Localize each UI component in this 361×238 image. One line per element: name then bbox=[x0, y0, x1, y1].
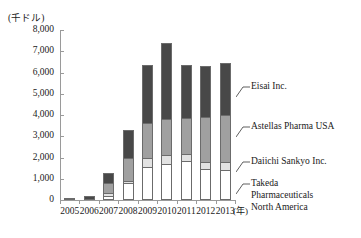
bar-segment bbox=[161, 155, 172, 164]
bar-segment bbox=[84, 196, 95, 199]
x-tick-mark bbox=[216, 200, 217, 204]
x-tick-label: 2007 bbox=[99, 206, 118, 217]
bar-segment bbox=[161, 119, 172, 155]
bar-segment bbox=[142, 123, 153, 159]
x-tick-label: 2011 bbox=[177, 206, 196, 217]
y-tick-label: 5,000 bbox=[8, 89, 54, 99]
bar-segment bbox=[103, 173, 114, 183]
y-tick-label: 1,000 bbox=[8, 174, 54, 184]
bar-segment bbox=[220, 115, 231, 162]
x-axis-line bbox=[60, 200, 236, 201]
bar-segment bbox=[220, 162, 231, 171]
legend-leader-daiichi bbox=[236, 161, 250, 173]
legend-label-eisai: Eisai Inc. bbox=[251, 81, 287, 93]
bar-2007 bbox=[103, 30, 114, 200]
bar-segment bbox=[142, 65, 153, 122]
legend-leader-astellas bbox=[236, 126, 250, 138]
legend-label-takeda-line2: Pharmaceuticals bbox=[251, 190, 313, 202]
bar-segment bbox=[103, 193, 114, 196]
x-tick-label: 2006 bbox=[79, 206, 98, 217]
x-tick-mark bbox=[118, 200, 119, 204]
x-tick-label: 2009 bbox=[138, 206, 157, 217]
x-tick-label: 2010 bbox=[157, 206, 176, 217]
bar-segment bbox=[200, 162, 211, 169]
bar-2011 bbox=[181, 30, 192, 200]
x-tick-mark bbox=[235, 200, 236, 204]
plot-area bbox=[60, 30, 235, 200]
bar-2010 bbox=[161, 30, 172, 200]
bar-segment bbox=[123, 181, 134, 183]
bar-segment bbox=[181, 154, 192, 161]
bar-segment bbox=[200, 66, 211, 117]
legend-leader-eisai bbox=[236, 86, 250, 98]
bar-2012 bbox=[200, 30, 211, 200]
x-tick-mark bbox=[196, 200, 197, 204]
bar-segment bbox=[200, 169, 211, 200]
x-tick-mark bbox=[138, 200, 139, 204]
y-tick-label: 3,000 bbox=[8, 131, 54, 141]
legend-label-daiichi: Daiichi Sankyo Inc. bbox=[251, 156, 327, 168]
x-tick-mark bbox=[177, 200, 178, 204]
bar-2009 bbox=[142, 30, 153, 200]
x-tick-label: 2012 bbox=[196, 206, 215, 217]
bar-segment bbox=[181, 118, 192, 154]
bar-segment bbox=[161, 43, 172, 120]
legend-label-takeda-line3: North America bbox=[251, 202, 308, 214]
x-axis-unit-label: (年) bbox=[233, 206, 248, 217]
legend-label-takeda-line1: Takeda bbox=[251, 178, 278, 190]
bar-segment bbox=[123, 158, 134, 181]
y-tick-label: 7,000 bbox=[8, 46, 54, 56]
bar-segment bbox=[103, 196, 114, 200]
bar-segment bbox=[142, 167, 153, 200]
y-tick-label: 8,000 bbox=[8, 25, 54, 35]
bar-segment bbox=[103, 183, 114, 193]
bar-segment bbox=[142, 158, 153, 167]
y-tick-label: 4,000 bbox=[8, 110, 54, 120]
x-tick-label: 2005 bbox=[60, 206, 79, 217]
bar-2013 bbox=[220, 30, 231, 200]
stacked-bar-chart: (千ドル) 8,0007,0006,0005,0004,0003,0002,00… bbox=[0, 0, 361, 238]
bar-2006 bbox=[84, 30, 95, 200]
legend-leader-takeda bbox=[236, 183, 250, 195]
bar-segment bbox=[181, 65, 192, 117]
y-axis-unit-label: (千ドル) bbox=[8, 10, 44, 24]
y-tick-label: 6,000 bbox=[8, 68, 54, 78]
legend-label-astellas: Astellas Pharma USA bbox=[251, 121, 334, 133]
x-tick-mark bbox=[99, 200, 100, 204]
bar-segment bbox=[64, 198, 75, 199]
x-tick-mark bbox=[60, 200, 61, 204]
bar-segment bbox=[123, 130, 134, 158]
bar-2008 bbox=[123, 30, 134, 200]
bar-segment bbox=[161, 164, 172, 200]
y-tick-label: 0 bbox=[8, 195, 54, 205]
bar-segment bbox=[220, 170, 231, 200]
x-tick-mark bbox=[157, 200, 158, 204]
bar-segment bbox=[220, 63, 231, 115]
bar-segment bbox=[200, 117, 211, 162]
bar-2005 bbox=[64, 30, 75, 200]
bar-segment bbox=[123, 183, 134, 200]
bar-segment bbox=[181, 161, 192, 200]
y-tick-label: 2,000 bbox=[8, 153, 54, 163]
x-tick-mark bbox=[79, 200, 80, 204]
x-tick-label: 2008 bbox=[118, 206, 137, 217]
